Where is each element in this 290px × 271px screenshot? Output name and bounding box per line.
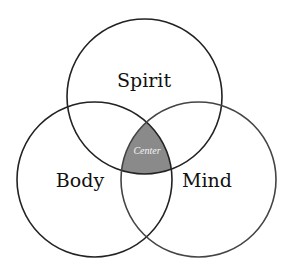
venn-diagram: Spirit Body Mind Center [0,0,290,271]
body-label: Body [56,169,105,191]
mind-label: Mind [182,169,232,191]
center-label: Center [133,145,160,156]
spirit-label: Spirit [117,69,171,91]
